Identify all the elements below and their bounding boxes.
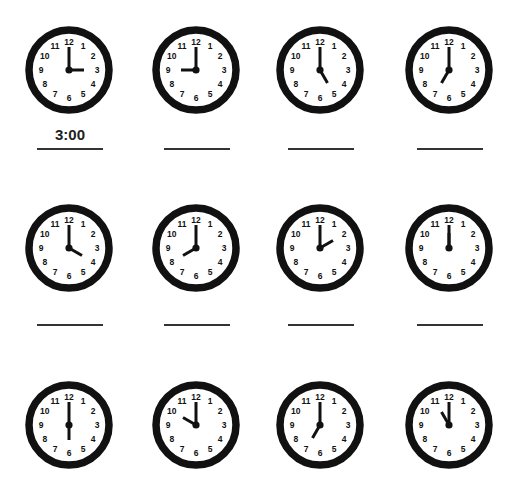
clock-number: 1 — [81, 219, 86, 229]
analog-clock: 121234567891011 — [152, 381, 240, 469]
clock-number: 6 — [318, 93, 323, 103]
clock-number: 1 — [332, 219, 337, 229]
clock-number: 5 — [208, 444, 213, 454]
clock-number: 9 — [419, 65, 424, 75]
clock-number: 4 — [342, 79, 347, 89]
clock-number: 10 — [40, 229, 50, 239]
clock-number: 3 — [475, 420, 480, 430]
clock-number: 4 — [91, 79, 96, 89]
answer-line[interactable] — [37, 148, 103, 150]
answer-line[interactable] — [417, 148, 483, 150]
answer-line[interactable] — [417, 324, 483, 326]
clock-number: 4 — [218, 434, 223, 444]
clock-center-pin — [316, 244, 323, 251]
clock-number: 11 — [302, 396, 311, 406]
clock-number: 5 — [81, 89, 86, 99]
clock-number: 8 — [42, 257, 47, 267]
clock-number: 3 — [346, 65, 351, 75]
clock-number: 8 — [293, 434, 298, 444]
analog-clock: 121234567891011 — [25, 204, 113, 292]
clock-face-icon: 121234567891011 — [25, 26, 113, 114]
clock-number: 2 — [342, 51, 347, 61]
clock-number: 9 — [290, 420, 295, 430]
clock-number: 2 — [218, 51, 223, 61]
clock-number: 6 — [318, 448, 323, 458]
answer-line[interactable] — [37, 324, 103, 326]
clock-number: 10 — [167, 406, 177, 416]
clock-number: 1 — [332, 41, 337, 51]
clock-number: 5 — [332, 444, 337, 454]
clock-number: 5 — [461, 267, 466, 277]
clock-number: 6 — [67, 93, 72, 103]
clock-number: 11 — [431, 396, 440, 406]
clock-number: 11 — [178, 41, 187, 51]
clock-number: 10 — [167, 229, 177, 239]
clock-number: 4 — [471, 79, 476, 89]
clock-number: 9 — [39, 420, 44, 430]
analog-clock: 121234567891011 — [276, 26, 364, 114]
clock-number: 10 — [291, 406, 301, 416]
clock-number: 10 — [420, 406, 430, 416]
clock-face-icon: 121234567891011 — [276, 204, 364, 292]
clock-number: 6 — [318, 271, 323, 281]
clock-number: 8 — [422, 257, 427, 267]
clock-face-icon: 121234567891011 — [405, 26, 493, 114]
clock-center-pin — [65, 66, 72, 73]
clock-number: 11 — [431, 41, 440, 51]
clock-number: 1 — [461, 219, 466, 229]
clock-number: 12 — [191, 37, 201, 47]
clock-face-icon: 121234567891011 — [152, 26, 240, 114]
clock-number: 6 — [194, 93, 199, 103]
clock-number: 2 — [91, 229, 96, 239]
clock-number: 4 — [342, 434, 347, 444]
clock-number: 3 — [222, 65, 227, 75]
clock-face-icon: 121234567891011 — [276, 26, 364, 114]
clock-number: 11 — [51, 41, 60, 51]
clock-number: 3 — [475, 243, 480, 253]
clock-center-pin — [445, 421, 452, 428]
analog-clock: 121234567891011 — [152, 204, 240, 292]
clock-face-icon: 121234567891011 — [25, 381, 113, 469]
clock-number: 9 — [39, 243, 44, 253]
clock-number: 12 — [191, 392, 201, 402]
clock-number: 3 — [346, 243, 351, 253]
clock-center-pin — [65, 421, 72, 428]
clock-number: 10 — [291, 229, 301, 239]
clock-number: 9 — [419, 243, 424, 253]
clock-number: 7 — [53, 267, 58, 277]
clock-number: 5 — [81, 444, 86, 454]
clock-number: 2 — [218, 406, 223, 416]
clock-center-pin — [192, 421, 199, 428]
clock-number: 2 — [218, 229, 223, 239]
answer-line[interactable] — [164, 148, 230, 150]
clock-number: 11 — [302, 219, 311, 229]
answer-line[interactable] — [288, 324, 354, 326]
clock-number: 4 — [91, 434, 96, 444]
clock-number: 1 — [461, 41, 466, 51]
clock-number: 12 — [64, 37, 74, 47]
clock-number: 5 — [332, 89, 337, 99]
clock-number: 6 — [67, 448, 72, 458]
clock-number: 6 — [447, 93, 452, 103]
clock-number: 9 — [166, 420, 171, 430]
clock-number: 7 — [180, 89, 185, 99]
answer-line[interactable] — [164, 324, 230, 326]
clock-number: 12 — [444, 392, 454, 402]
clock-number: 11 — [51, 396, 60, 406]
answer-line[interactable] — [288, 148, 354, 150]
clock-number: 7 — [304, 267, 309, 277]
clock-number: 8 — [422, 79, 427, 89]
clock-face-icon: 121234567891011 — [405, 381, 493, 469]
clock-number: 7 — [304, 89, 309, 99]
clock-number: 2 — [91, 51, 96, 61]
clock-number: 10 — [40, 406, 50, 416]
clock-number: 7 — [180, 444, 185, 454]
clock-face-icon: 121234567891011 — [152, 381, 240, 469]
clock-center-pin — [316, 66, 323, 73]
clock-number: 12 — [64, 215, 74, 225]
clock-number: 1 — [332, 396, 337, 406]
clock-number: 10 — [420, 51, 430, 61]
clock-number: 9 — [290, 65, 295, 75]
clock-number: 3 — [346, 420, 351, 430]
clock-number: 12 — [444, 215, 454, 225]
